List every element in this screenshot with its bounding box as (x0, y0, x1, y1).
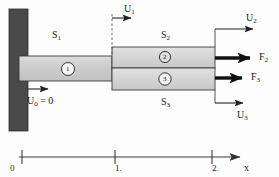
label-s1: S1 (52, 30, 61, 40)
label-u1: U1 (124, 4, 135, 14)
axis-tick-2: 2. (212, 164, 219, 173)
diagram-vector-layer (0, 0, 279, 177)
label-s2: S2 (161, 30, 170, 40)
element-number-2: 2 (163, 54, 167, 61)
element-number-3: 3 (163, 76, 167, 83)
label-f2: F2 (259, 52, 268, 62)
element-number-1: 1 (66, 66, 70, 73)
label-f3: F3 (251, 72, 260, 82)
label-s3: S3 (161, 97, 170, 107)
axis-name: x (244, 163, 249, 173)
label-u2: U2 (246, 13, 257, 23)
label-u0: U0 = 0 (27, 96, 53, 106)
axis-tick-1: 1. (115, 164, 122, 173)
axis-tick-0: 0 (10, 164, 15, 173)
diagram-canvas: S1 S2 S3 1 2 3 U0 = 0 U1 U2 U3 F2 F3 0 1… (0, 0, 279, 177)
x-axis (19, 150, 240, 164)
label-u3: U3 (237, 110, 248, 120)
